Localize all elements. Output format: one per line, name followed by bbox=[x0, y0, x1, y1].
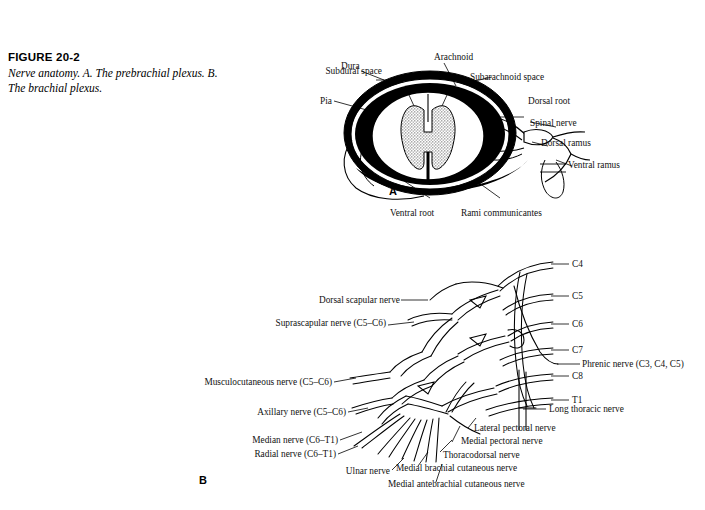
label-axillary-nerve: Axillary nerve (C5–C6) bbox=[130, 407, 346, 417]
label-long-thoracic-nerve: Long thoracic nerve bbox=[549, 404, 624, 414]
label-root-c7: C7 bbox=[572, 345, 583, 355]
label-root-c5: C5 bbox=[572, 291, 583, 301]
label-spinal-nerve: Spinal nerve bbox=[530, 118, 577, 128]
label-dorsal-ramus: Dorsal ramus bbox=[541, 138, 591, 148]
figure-page: FIGURE 20-2 Nerve anatomy. A. The prebra… bbox=[0, 0, 705, 510]
label-dura: Dura bbox=[341, 61, 360, 71]
label-ventral-ramus: Ventral ramus bbox=[568, 160, 620, 170]
label-ulnar-nerve: Ulnar nerve bbox=[230, 466, 390, 476]
label-medial-antebrachial-cutaneous-nerve: Medial antebrachial cutaneous nerve bbox=[388, 479, 525, 489]
label-root-c6: C6 bbox=[572, 319, 583, 329]
label-subarachnoid-space: Subarachnoid space bbox=[470, 72, 544, 82]
label-musculocutaneous-nerve: Musculocutaneous nerve (C5–C6) bbox=[90, 377, 332, 387]
figure-caption-text: Nerve anatomy. A. The prebrachial plexus… bbox=[8, 66, 218, 95]
label-pia: Pia bbox=[290, 96, 332, 106]
label-radial-nerve: Radial nerve (C6–T1) bbox=[150, 449, 336, 459]
label-medial-pectoral-nerve: Medial pectoral nerve bbox=[461, 436, 543, 446]
figure-caption-block: FIGURE 20-2 Nerve anatomy. A. The prebra… bbox=[8, 50, 218, 95]
label-thoracodorsal-nerve: Thoracodorsal nerve bbox=[443, 450, 520, 460]
figure-number: FIGURE 20-2 bbox=[8, 50, 218, 64]
label-median-nerve: Median nerve (C6–T1) bbox=[140, 435, 338, 445]
panel-b-letter: B bbox=[199, 474, 207, 486]
label-rami-communicantes: Rami communicantes bbox=[461, 208, 542, 218]
label-arachnoid: Arachnoid bbox=[434, 52, 473, 62]
label-root-c4: C4 bbox=[572, 259, 583, 269]
label-ventral-root: Ventral root bbox=[390, 208, 434, 218]
label-phrenic-nerve: Phrenic nerve (C3, C4, C5) bbox=[582, 359, 684, 369]
label-suprascapular-nerve: Suprascapular nerve (C5–C6) bbox=[160, 318, 386, 328]
label-root-c8: C8 bbox=[572, 371, 583, 381]
label-medial-brachial-cutaneous-nerve: Medial brachial cutaneous nerve bbox=[396, 463, 517, 473]
label-lateral-pectoral-nerve: Lateral pectoral nerve bbox=[474, 423, 556, 433]
spinal-cord-cross-section bbox=[344, 71, 590, 199]
label-dorsal-scapular-nerve: Dorsal scapular nerve bbox=[200, 295, 400, 305]
panel-a-leader-lines bbox=[334, 63, 572, 198]
label-dorsal-root: Dorsal root bbox=[528, 96, 570, 106]
panel-a-letter: A bbox=[389, 185, 397, 197]
label-subdural-space: Subdural space bbox=[298, 66, 382, 76]
